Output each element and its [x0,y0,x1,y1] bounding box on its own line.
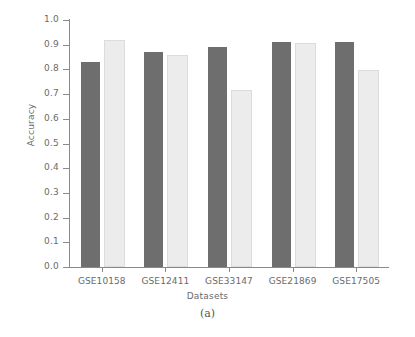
figure-panel-a: Accuracy 1.00.90.80.70.60.50.40.30.20.10… [0,0,415,337]
bar [81,62,100,267]
y-axis-tick-label: 0.4 [44,162,59,172]
y-axis-tick-label: 0.8 [44,63,59,73]
bar [295,43,316,267]
y-axis-tick-label: 0.1 [44,236,59,246]
figure-caption: (a) [0,307,415,320]
bar [144,52,163,267]
x-axis-category-label: GSE10158 [70,276,134,286]
y-axis-tick: 1.0 [63,20,69,21]
y-axis-tick-label: 0.2 [44,212,59,222]
y-axis-tick: 0.2 [63,218,69,219]
x-axis-category-label: GSE17505 [324,276,388,286]
y-axis-tick-label: 0.0 [44,261,59,271]
bar [208,47,227,267]
y-axis-tick-label: 0.3 [44,187,59,197]
bar [104,40,125,267]
y-axis-tick-label: 0.9 [44,39,59,49]
y-axis-tick: 0.4 [63,168,69,169]
x-axis-tick [165,268,166,272]
bar [358,70,379,267]
y-axis-tick: 0.8 [63,69,69,70]
y-axis-tick: 0.1 [63,242,69,243]
bar [335,42,354,267]
y-axis-tick: 0.5 [63,144,69,145]
y-axis-tick-label: 0.5 [44,138,59,148]
x-axis-category-label: GSE12411 [134,276,198,286]
y-axis-title: Accuracy [26,90,36,160]
y-axis-tick-label: 0.6 [44,113,59,123]
x-axis-category-label: GSE21869 [261,276,325,286]
y-axis-tick: 0.9 [63,45,69,46]
x-axis-title: Datasets [0,291,415,301]
y-axis-tick: 0.3 [63,193,69,194]
x-axis-tick [356,268,357,272]
y-axis-tick: 0.0 [63,267,69,268]
y-axis-tick-label: 1.0 [44,14,59,24]
x-axis-category-label: GSE33147 [197,276,261,286]
bar [167,55,188,267]
x-axis-tick [293,268,294,272]
bar [231,90,252,267]
y-axis-tick: 0.7 [63,94,69,95]
x-axis-tick [102,268,103,272]
y-axis-tick: 0.6 [63,119,69,120]
y-axis-tick-label: 0.7 [44,88,59,98]
x-axis-tick [229,268,230,272]
plot-area [70,20,388,267]
bar [272,42,291,267]
